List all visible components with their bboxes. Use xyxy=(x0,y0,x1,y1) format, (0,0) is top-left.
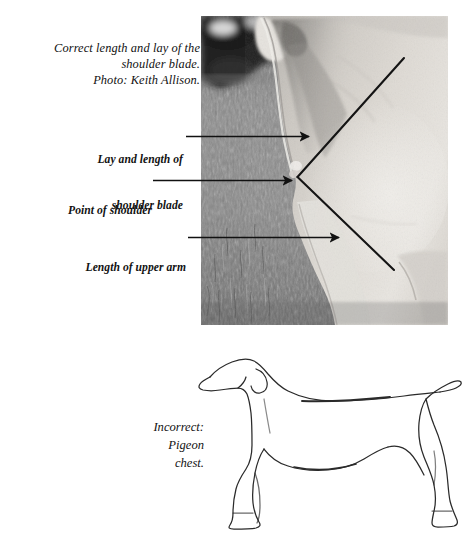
callout-point-of-shoulder-line-1: Point of shoulder xyxy=(0,203,152,218)
photo-caption-line-1: Correct length and lay of the xyxy=(14,40,200,56)
dog-outline-svg xyxy=(182,343,469,537)
sketch-caption-line-1: Incorrect: xyxy=(96,418,204,436)
sketch-caption-line-3: chest. xyxy=(96,454,204,472)
photo-caption-line-2: shoulder blade. xyxy=(14,56,200,72)
photo-credit: Photo: Keith Allison. xyxy=(14,72,200,88)
sketch-caption-line-2: Pigeon xyxy=(96,436,204,454)
photograph-image xyxy=(201,16,448,325)
dog-outline-sketch xyxy=(182,343,469,537)
figure-stage: Correct length and lay of the shoulder b… xyxy=(0,0,469,537)
callout-shoulder-blade-line-1: Lay and length of xyxy=(0,152,183,167)
sketch-caption: Incorrect: Pigeon chest. xyxy=(96,418,204,472)
callout-label-upper-arm: Length of upper arm xyxy=(0,230,186,306)
photo-caption: Correct length and lay of the shoulder b… xyxy=(14,40,200,89)
shoulder-photograph xyxy=(201,16,448,325)
callout-upper-arm-line-1: Length of upper arm xyxy=(0,260,186,275)
